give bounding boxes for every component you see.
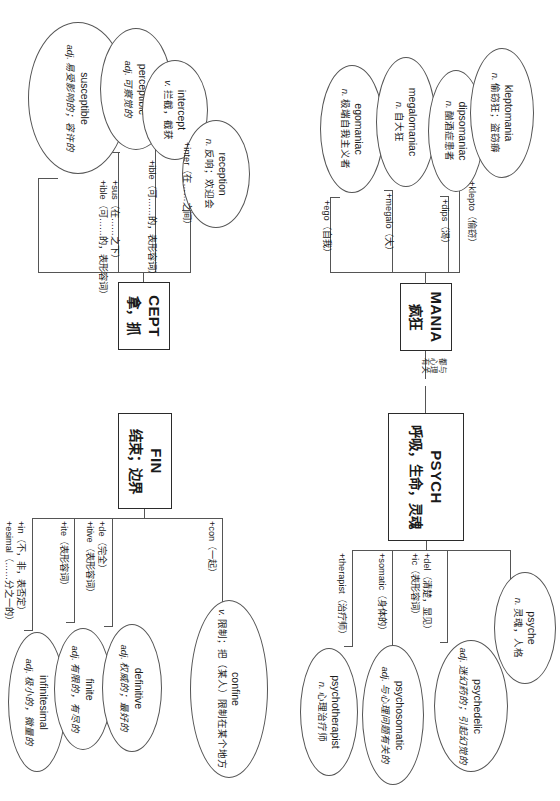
def-psychotherapist: 心理治疗师	[317, 692, 328, 742]
word-ellipse-kleptomania[interactable]: kleptomania n. 偷窃狂；盗窃癖	[470, 48, 534, 178]
root-node-fin[interactable]: FIN 结束；边界	[118, 413, 172, 509]
pos-intercept: v.	[163, 80, 174, 87]
def-susceptible: 易受影响的；容许的	[66, 62, 77, 152]
word-definitive: definitive	[134, 644, 146, 732]
word-ellipse-megalomaniac[interactable]: megalomaniac n. 自大狂	[376, 57, 436, 187]
word-confine: confine	[230, 609, 242, 768]
word-reception: reception	[217, 139, 229, 210]
mindmap-canvas: CEPT 拿，抓 susceptible adj. 易受影响的；容许的 perc…	[0, 0, 560, 801]
word-ellipse-psychosomatic[interactable]: psychosomatic adj. 与心理问题有关的	[362, 645, 424, 785]
affix-label-somatic: +somatic（身体的）	[376, 553, 388, 635]
root-node-cept[interactable]: CEPT 拿，抓	[118, 282, 170, 350]
word-finite: finite	[85, 645, 97, 733]
affix-label-therapist: +therapist（治疗师）	[336, 553, 348, 639]
fin-arm-2-tip	[66, 622, 75, 623]
pos-psyche: n.	[513, 598, 524, 606]
pos-megalomaniac: n.	[394, 102, 405, 110]
pos-psychosomatic: adj.	[381, 666, 392, 681]
psych-arm-1-tip	[344, 646, 353, 647]
root-node-cept-gloss: 拿，抓	[125, 295, 145, 337]
fin-trunk-stem	[144, 509, 145, 518]
cept-arm-1-tip	[38, 178, 58, 179]
word-infinitesimal: infinitesimal	[39, 658, 51, 746]
psych-arm-2	[392, 550, 393, 653]
def-egomaniac: 极端自我主义者	[340, 99, 351, 169]
root-node-psych-title: PSYCH	[428, 425, 445, 529]
affix-label-con: +con（一起）	[206, 521, 218, 577]
pos-susceptible: adj.	[66, 44, 77, 59]
def-perceptible: 可察觉的	[124, 78, 135, 118]
def-intercept: 拦截，截获	[163, 90, 174, 140]
fin-arm-2	[74, 518, 75, 622]
pos-egomaniac: n.	[340, 89, 351, 97]
pos-psychotherapist: n.	[317, 682, 328, 690]
affix-label-ible: +ible（可……的，表形容词）	[146, 160, 158, 279]
mania-arm-4	[459, 178, 460, 273]
psych-mania-link-note: 都与 心理 有关	[420, 358, 446, 374]
def-definitive: 权威的；最好的	[120, 662, 131, 732]
fin-arm-3-tip	[104, 626, 113, 627]
mania-trunk-stem	[425, 272, 426, 284]
mania-arm-2-tip	[384, 190, 393, 191]
word-ellipse-confine[interactable]: confine v. 限制；把（某人）限制在某个地方	[190, 600, 268, 778]
root-node-mania[interactable]: MANIA 疯狂	[400, 283, 452, 351]
word-ellipse-psychedelic[interactable]: psychedelic adj. 迷幻药的；引起幻觉的	[434, 640, 508, 772]
affix-label-del-ic: +del（清楚，显见） +ic（表形容词）	[409, 553, 432, 634]
word-ellipse-psyche[interactable]: psyche n. 灵魂，人格	[494, 572, 556, 684]
pos-psychedelic: adj.	[459, 647, 470, 662]
mania-arm-1-tip	[330, 197, 340, 198]
psych-bracket-bar	[352, 550, 510, 551]
root-node-psych[interactable]: PSYCH 呼吸，生命，灵魂	[388, 413, 464, 541]
word-psychosomatic: psychosomatic	[395, 666, 407, 764]
pos-confine: v.	[217, 609, 228, 616]
psych-arm-3-tip	[440, 642, 448, 643]
psych-arm-3	[447, 550, 448, 642]
pos-definitive: adj.	[120, 644, 131, 659]
cept-arm-1	[38, 178, 39, 273]
word-psychotherapist: psychotherapist	[330, 675, 342, 749]
def-psyche: 灵魂，人格	[513, 608, 524, 658]
fin-arm-1	[32, 518, 33, 630]
mania-arm-3-tip	[440, 196, 449, 197]
root-node-fin-title: FIN	[147, 429, 164, 494]
affix-label-megalo: +megalo（大）	[383, 193, 395, 256]
word-ellipse-definitive[interactable]: definitive adj. 权威的；最好的	[102, 624, 162, 752]
affix-label-sus-ible: +sus（在……之下） +ible（可……的，表形容词）	[97, 180, 120, 299]
pos-kleptomania: n.	[490, 73, 501, 81]
word-ellipse-egomaniac[interactable]: egomaniac n. 极端自我主义者	[320, 65, 384, 193]
word-dipsomaniac: dipsomaniac	[457, 101, 469, 162]
affix-label-de-itive: +de（完全） +itive（表形容词）	[84, 521, 107, 597]
def-psychosomatic: 与心理问题有关的	[381, 684, 392, 764]
pos-dipsomaniac: n.	[444, 101, 455, 109]
cept-trunk-stem	[143, 272, 144, 282]
def-confine: 限制；把（某人）限制在某个地方	[217, 619, 228, 769]
root-node-fin-gloss: 结束；边界	[126, 429, 146, 494]
def-psychedelic: 迷幻药的；引起幻觉的	[459, 665, 470, 765]
psych-trunk-stem	[426, 541, 427, 550]
fin-arm-1-tip	[24, 630, 33, 631]
word-ellipse-reception[interactable]: reception n. 反响；欢迎会	[182, 120, 250, 228]
def-dipsomaniac: 酗酒症患者	[444, 111, 455, 161]
root-node-mania-title: MANIA	[428, 291, 445, 342]
word-ellipse-psychotherapist[interactable]: psychotherapist n. 心理治疗师	[300, 648, 358, 776]
word-susceptible: susceptible	[80, 44, 92, 152]
word-egomaniac: egomaniac	[353, 89, 365, 170]
root-node-psych-gloss: 呼吸，生命，灵魂	[407, 425, 427, 529]
def-kleptomania: 偷窃狂；盗窃癖	[490, 83, 501, 153]
root-node-cept-title: CEPT	[146, 295, 163, 337]
def-infinitesimal: 极小的，微量的	[25, 676, 36, 746]
affix-label-dips: +dips（渴）	[439, 199, 451, 248]
mania-bracket-bar	[330, 272, 460, 273]
affix-label-inter: +inter（在……之间）	[181, 142, 193, 229]
root-node-mania-gloss: 疯狂	[407, 291, 427, 342]
word-psychedelic: psychedelic	[473, 647, 485, 765]
pos-infinitesimal: adj.	[25, 658, 36, 673]
affix-label-ite: +ite（表形容词）	[58, 521, 70, 590]
fin-arm-3	[112, 518, 113, 626]
word-kleptomania: kleptomania	[503, 73, 515, 154]
word-psyche: psyche	[526, 598, 538, 659]
pos-perceptible: adj.	[124, 60, 135, 75]
center-link-lower	[425, 386, 426, 413]
word-intercept: intercept	[176, 80, 188, 139]
affix-label-ego: +ego（自我）	[321, 200, 333, 257]
